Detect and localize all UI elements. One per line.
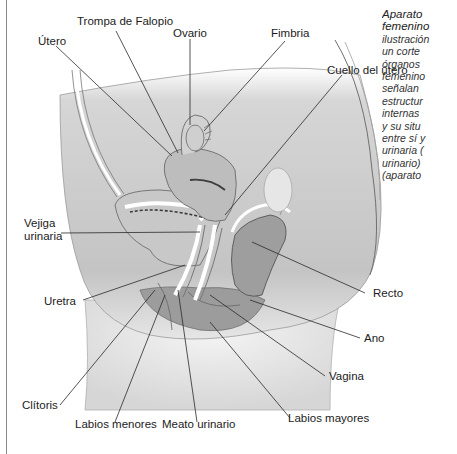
- caption-line: estructur: [382, 95, 457, 107]
- caption-line: (aparato: [382, 169, 457, 181]
- caption-line: ilustración: [382, 33, 457, 45]
- label-ovario: Ovario: [173, 27, 207, 40]
- ovary: [186, 125, 204, 151]
- caption-line: internas: [382, 107, 457, 119]
- label-labios-menores: Labios menores: [75, 418, 157, 431]
- caption-line: órganos: [382, 58, 457, 70]
- label-vejiga-line2: urinaria: [24, 230, 62, 243]
- caption-line: un corte: [382, 45, 457, 57]
- label-vejiga-line1: Vejiga: [24, 217, 55, 230]
- label-fimbria: Fimbria: [271, 27, 309, 40]
- caption-line: entre sí y: [382, 132, 457, 144]
- label-utero: Útero: [38, 35, 66, 48]
- label-clitoris: Clítoris: [22, 399, 58, 412]
- caption-line: urinario): [382, 157, 457, 169]
- caption-line: Aparato: [382, 8, 457, 20]
- label-trompa-de-falopio: Trompa de Falopio: [77, 15, 173, 28]
- caption-line: femenino: [382, 70, 457, 82]
- caption-line: femenino: [382, 20, 457, 32]
- caption-line: y su situ: [382, 120, 457, 132]
- figure-caption: Aparato femenino ilustración un corte ór…: [382, 8, 457, 182]
- label-meato-urinario: Meato urinario: [162, 418, 236, 431]
- label-uretra: Uretra: [44, 295, 76, 308]
- caption-line: señalan: [382, 82, 457, 94]
- label-labios-mayores: Labios mayores: [288, 412, 369, 425]
- label-vagina: Vagina: [329, 370, 364, 383]
- caption-line: urinaria (: [382, 144, 457, 156]
- label-recto: Recto: [373, 287, 403, 300]
- label-ano: Ano: [364, 332, 384, 345]
